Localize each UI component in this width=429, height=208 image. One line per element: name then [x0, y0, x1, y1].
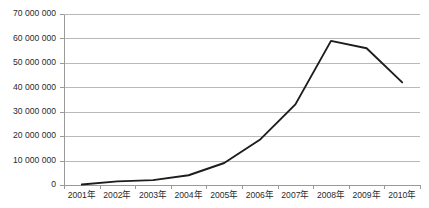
y-tick-label: 70 000 000 — [13, 8, 56, 18]
y-tick-label: 10 000 000 — [13, 155, 56, 165]
x-tick-label: 2001年 — [68, 189, 96, 200]
y-tick-label: 60 000 000 — [13, 33, 56, 43]
x-tick-label: 2008年 — [317, 189, 345, 200]
line-chart: 010 000 00020 000 00030 000 00040 000 00… — [0, 0, 429, 208]
chart-canvas: 010 000 00020 000 00030 000 00040 000 00… — [0, 0, 429, 208]
x-tick-label: 2002年 — [103, 189, 131, 200]
y-tick-label: 50 000 000 — [13, 57, 56, 67]
x-tick-label: 2007年 — [281, 189, 309, 200]
y-tick-label: 0 — [51, 179, 56, 189]
x-tick-label: 2009年 — [353, 189, 381, 200]
x-tick-label: 2004年 — [175, 189, 203, 200]
y-tick-label: 20 000 000 — [13, 130, 56, 140]
x-tick-label: 2003年 — [139, 189, 167, 200]
x-tick-label: 2006年 — [246, 189, 274, 200]
x-tick-label: 2005年 — [210, 189, 238, 200]
y-tick-label: 30 000 000 — [13, 106, 56, 116]
y-tick-label: 40 000 000 — [13, 82, 56, 92]
x-tick-label: 2010年 — [388, 189, 416, 200]
